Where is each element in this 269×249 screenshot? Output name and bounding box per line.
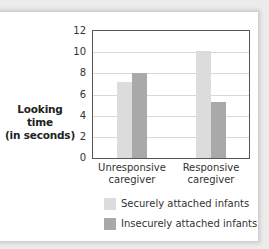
legend-item-insecure: Insecurely attached infants [104, 218, 257, 230]
y-axis-label-line2: (in seconds) [5, 129, 75, 142]
y-axis-label: Looking time (in seconds) [5, 103, 75, 142]
bar-insecure [132, 73, 147, 158]
category-label-line: caregiver [171, 174, 251, 186]
y-tick-label: 0 [66, 152, 86, 163]
plot-area [92, 30, 250, 159]
category-label-line: Responsive [171, 162, 251, 174]
category-label-responsive: Responsive caregiver [171, 162, 251, 186]
legend-item-secure: Securely attached infants [104, 198, 249, 210]
y-axis-label-line1: Looking time [5, 103, 75, 129]
legend-swatch-insecure [104, 218, 116, 230]
legend-label: Insecurely attached infants [121, 218, 257, 229]
category-label-line: Unresponsive [92, 162, 172, 174]
gridline [93, 73, 249, 74]
bar-secure [196, 51, 211, 158]
category-label-line: caregiver [92, 174, 172, 186]
y-tick-label: 2 [66, 131, 86, 142]
y-tick-label: 10 [66, 46, 86, 57]
bar-secure [117, 82, 132, 158]
y-tick-label: 4 [66, 110, 86, 121]
legend-label: Securely attached infants [121, 198, 249, 209]
legend-swatch-secure [104, 198, 116, 210]
y-tick-label: 8 [66, 67, 86, 78]
bar-insecure [211, 102, 226, 158]
category-label-unresponsive: Unresponsive caregiver [92, 162, 172, 186]
y-tick-label: 6 [66, 89, 86, 100]
gridline [93, 52, 249, 53]
y-tick-label: 12 [66, 25, 86, 36]
